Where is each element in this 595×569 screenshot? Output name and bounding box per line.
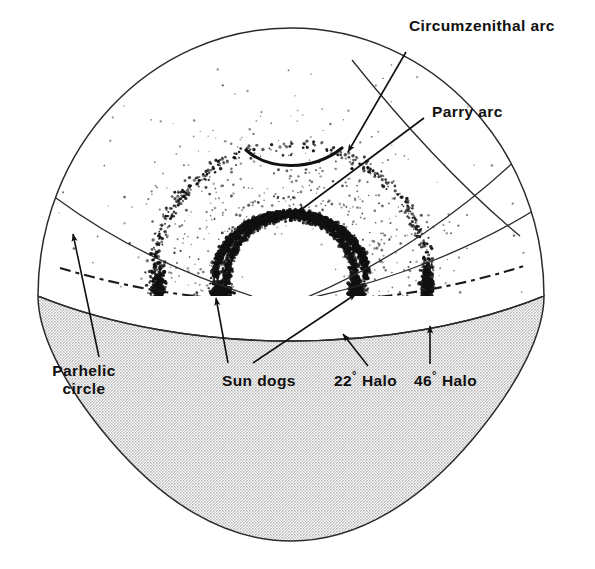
label-parhelic-circle-line1: Parhelic: [52, 362, 116, 379]
label-halo-22-word: Halo: [362, 372, 397, 389]
label-halo-46: 46 ° Halo: [414, 369, 477, 389]
label-halo-46-value: 46: [414, 372, 432, 389]
label-halo-46-word: Halo: [442, 372, 477, 389]
label-parry-arc: Parry arc: [432, 103, 503, 120]
ground-region: [38, 296, 544, 541]
label-halo-22-value: 22: [334, 372, 352, 389]
label-halo-22: 22 ° Halo: [334, 369, 397, 389]
label-sun-dogs: Sun dogs: [222, 372, 296, 389]
label-parhelic-circle-line2: circle: [63, 380, 106, 397]
label-halo-22-degree: °: [352, 369, 357, 381]
halo-diagram-canvas: Circumzenithal arc Parry arc Parhelic ci…: [0, 0, 595, 569]
sun-disc-blank: [247, 235, 335, 323]
label-circumzenithal-arc: Circumzenithal arc: [409, 17, 555, 34]
halo-diagram: Circumzenithal arc Parry arc Parhelic ci…: [0, 0, 595, 569]
label-halo-46-degree: °: [432, 369, 437, 381]
